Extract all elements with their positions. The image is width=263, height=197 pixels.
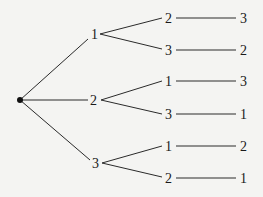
node-l1-a: 1 [91, 27, 98, 42]
node-l3: 1 [240, 171, 247, 186]
edge [101, 81, 162, 100]
node-l2: 2 [165, 171, 172, 186]
node-l2: 1 [165, 139, 172, 154]
node-l2: 3 [165, 43, 172, 58]
root-node [17, 97, 23, 103]
node-l3: 1 [240, 107, 247, 122]
edge [102, 146, 162, 163]
node-l3: 2 [240, 43, 247, 58]
edge [101, 100, 162, 114]
node-l3: 3 [240, 11, 247, 26]
node-l3: 2 [240, 139, 247, 154]
edge [100, 34, 162, 49]
edge [100, 18, 162, 34]
node-l3: 3 [240, 74, 247, 89]
edge-root-3 [20, 100, 90, 160]
tree-diagram: 1 2 3 2 3 1 3 1 2 3 2 3 1 2 1 [0, 0, 263, 197]
edge [102, 163, 162, 177]
node-l2: 1 [165, 74, 172, 89]
node-l2: 3 [165, 107, 172, 122]
node-l2: 2 [165, 11, 172, 26]
node-l1-c: 3 [92, 156, 99, 171]
edge-root-1 [20, 39, 88, 100]
node-l1-b: 2 [90, 93, 97, 108]
